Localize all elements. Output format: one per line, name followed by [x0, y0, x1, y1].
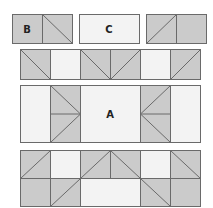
row-4-top	[21, 151, 201, 179]
unit-half-square-pair	[147, 15, 207, 44]
label-b: B	[23, 24, 31, 35]
label-c: C	[105, 24, 112, 35]
quilt-diagram: B C A	[0, 0, 213, 208]
row-2	[21, 50, 201, 80]
row-4-bottom	[21, 179, 201, 207]
unit-b	[13, 15, 73, 44]
label-a: A	[106, 109, 114, 120]
